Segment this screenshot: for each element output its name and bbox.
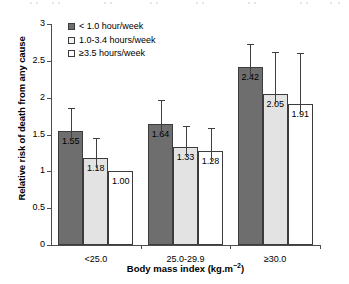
error-bar-stem [250,44,251,77]
scan-speck [330,2,332,4]
scan-speck [58,2,60,4]
legend-swatch-icon [68,50,75,57]
bar [148,124,173,245]
bar [238,67,263,245]
y-axis-tick [47,98,51,99]
y-axis-tick [47,135,51,136]
scan-speck [36,2,38,4]
scan-speck [196,2,198,4]
legend-item-label: 1.0-3.4 hours/week [79,34,156,48]
scan-speck [202,2,204,4]
x-axis-tick [230,245,231,249]
y-axis-tick-label: 0.5 [21,202,45,212]
y-axis-tick [47,245,51,246]
scan-speck [254,2,256,4]
bar-chart-figure: Relative risk of death from any cause <2… [0,0,349,284]
scan-artifact [0,0,349,6]
y-axis-tick-label: 1.5 [21,129,45,139]
legend-swatch-icon [68,23,75,30]
error-bar-cap [183,126,190,127]
error-bar-cap [93,138,100,139]
error-bar-cap [247,44,254,45]
error-bar-cap [208,128,215,129]
scan-speck [30,2,32,4]
error-bar-cap [297,53,304,54]
error-bar-stem [96,138,97,168]
scan-speck [300,2,302,4]
legend-item-label: ≥3.5 hours/week [79,47,145,61]
x-axis-line [51,245,320,246]
legend-item-label: < 1.0 hour/week [79,20,143,34]
legend-item: < 1.0 hour/week [68,20,156,34]
scan-speck [306,2,308,4]
bar-value-label: 1.00 [105,176,136,186]
scan-speck [156,2,158,4]
y-axis-tick-label: 3 [21,18,45,28]
scan-speck [248,2,250,4]
error-bar-stem [275,52,276,104]
y-axis-tick-label: 0 [21,239,45,249]
y-axis-tick-label: 2 [21,92,45,102]
y-axis-line [51,24,52,246]
x-axis-tick [320,245,321,249]
scan-speck [110,2,112,4]
y-axis-tick-label: 1 [21,165,45,175]
x-axis-title: Body mass index (kg.m−2) [51,262,320,274]
y-axis-tick-label: 2.5 [21,55,45,65]
y-axis-tick [47,208,51,209]
legend-swatch-icon [68,37,75,44]
error-bar-stem [300,53,301,114]
error-bar-cap [158,100,165,101]
y-axis-tick [47,61,51,62]
error-bar-cap [272,52,279,53]
legend-item: ≥3.5 hours/week [68,47,156,61]
legend: < 1.0 hour/week1.0-3.4 hours/week≥3.5 ho… [68,20,156,61]
scan-speck [52,2,54,4]
x-axis-tick [141,245,142,249]
x-axis-title-superscript: −2 [233,262,241,269]
error-bar-cap [68,108,75,109]
error-bar-stem [211,128,212,161]
error-bar-stem [186,126,187,157]
bar [288,104,313,245]
error-bar-stem [161,100,162,134]
y-axis-tick [47,171,51,172]
scan-speck [104,2,106,4]
error-bar-stem [71,108,72,141]
legend-item: 1.0-3.4 hours/week [68,34,156,48]
bar [58,131,83,245]
scan-speck [150,2,152,4]
y-axis-tick [47,24,51,25]
scan-speck [338,2,340,4]
y-axis-title: Relative risk of death from any cause [16,14,27,224]
